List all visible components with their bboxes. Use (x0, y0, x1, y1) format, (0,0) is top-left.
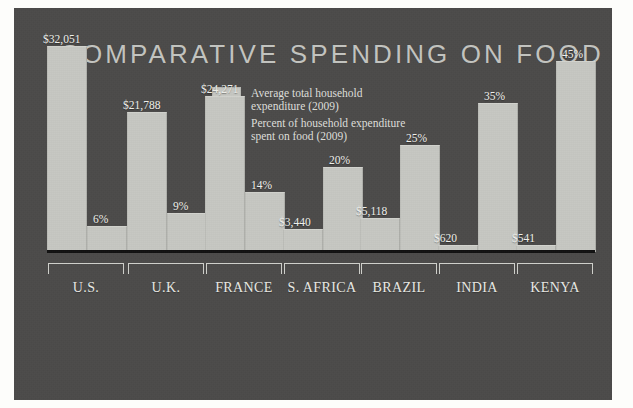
bar-percent-india (478, 103, 518, 252)
bar-label-expenditure-u-s: $32,051 (43, 33, 80, 45)
plot-area: $32,0516%U.S.$21,7889%U.K.$24,27114%FRAN… (14, 8, 612, 400)
bar-label-percent-u-s: 6% (93, 213, 108, 225)
bar-percent-u-k (167, 213, 207, 252)
category-label-s-africa: S. AFRICA (283, 280, 361, 296)
bar-label-percent-india: 35% (484, 90, 505, 102)
bar-label-percent-france: 14% (251, 179, 272, 191)
bar-percent-u-s (87, 226, 127, 252)
bar-expenditure-s-africa (283, 229, 323, 252)
bar-label-expenditure-brazil: $5,118 (356, 205, 387, 217)
bar-expenditure-brazil (360, 218, 400, 252)
bar-label-percent-u-k: 9% (173, 200, 188, 212)
bar-percent-kenya (556, 61, 596, 252)
group-bracket-brazil (361, 263, 437, 274)
bar-label-expenditure-u-k: $21,788 (123, 99, 160, 111)
group-bracket-india (439, 263, 515, 274)
bar-label-percent-brazil: 25% (406, 132, 427, 144)
bar-label-percent-kenya: 45% (562, 48, 583, 60)
group-bracket-kenya (517, 263, 593, 274)
category-label-u-s: U.S. (47, 280, 125, 296)
group-bracket-s-africa (284, 263, 360, 274)
bar-label-expenditure-s-africa: $3,440 (279, 216, 311, 228)
axis-baseline (47, 250, 595, 253)
category-label-brazil: BRAZIL (360, 280, 438, 296)
bar-label-expenditure-france: $24,271 (201, 83, 238, 95)
category-label-u-k: U.K. (127, 280, 205, 296)
category-label-india: INDIA (438, 280, 516, 296)
bar-label-expenditure-india: $620 (434, 232, 457, 244)
page-background: COMPARATIVE SPENDING ON FOOD Average tot… (0, 0, 633, 408)
group-bracket-france (206, 263, 282, 274)
bar-expenditure-u-s (47, 46, 87, 252)
bar-expenditure-france (205, 96, 245, 252)
category-label-france: FRANCE (205, 280, 283, 296)
group-bracket-u-k (128, 263, 204, 274)
chart-panel: COMPARATIVE SPENDING ON FOOD Average tot… (14, 8, 612, 400)
group-bracket-u-s (48, 263, 124, 274)
bar-expenditure-u-k (127, 112, 167, 252)
bar-label-percent-s-africa: 20% (329, 154, 350, 166)
category-label-kenya: KENYA (516, 280, 594, 296)
bar-label-expenditure-kenya: $541 (512, 232, 535, 244)
